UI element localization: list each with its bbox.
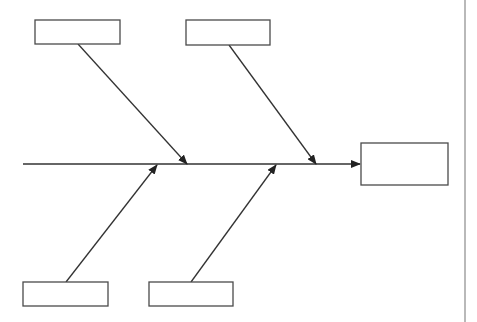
fishbone-diagram <box>0 0 477 322</box>
effect-box[interactable] <box>361 143 448 185</box>
cause-box-top-middle[interactable] <box>186 20 270 45</box>
cause-bone-bottom-middle <box>191 165 276 282</box>
cause-bone-top-middle <box>229 45 316 164</box>
cause-box-top-left[interactable] <box>35 20 120 44</box>
cause-bone-bottom-left <box>66 165 157 282</box>
cause-box-bottom-middle[interactable] <box>149 282 233 306</box>
cause-bone-top-left <box>78 44 187 164</box>
cause-box-bottom-left[interactable] <box>23 282 108 306</box>
